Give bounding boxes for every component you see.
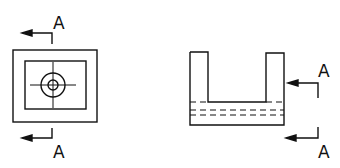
arrow-left-icon xyxy=(22,30,32,36)
label-a-bottom-left: A xyxy=(53,142,65,162)
arrow-left-icon xyxy=(286,135,296,141)
section-line-bottom-right xyxy=(296,127,318,138)
section-line-top-right xyxy=(298,83,318,98)
section-line-top-left xyxy=(30,33,52,44)
section-line-bottom-left xyxy=(30,128,52,138)
label-a-top-left: A xyxy=(53,13,65,33)
label-a-top-right: A xyxy=(318,61,330,81)
drawing-canvas: A A A A xyxy=(0,0,340,168)
arrow-left-icon xyxy=(22,135,32,141)
center-lines xyxy=(30,62,76,108)
front-view-u-shape xyxy=(190,52,284,125)
label-a-bottom-right: A xyxy=(318,142,330,162)
hidden-lines xyxy=(190,102,284,115)
arrow-left-icon xyxy=(288,80,298,86)
